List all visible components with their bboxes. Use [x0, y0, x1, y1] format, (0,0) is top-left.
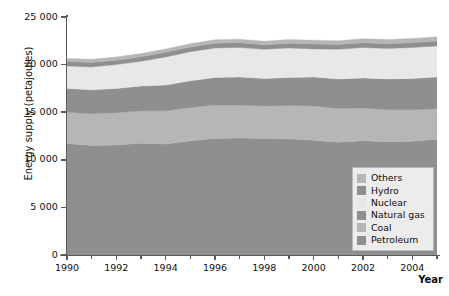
x-axis-tick: [116, 255, 118, 260]
x-axis-tick-label: 2000: [291, 262, 337, 273]
x-axis-minor-tick: [239, 255, 241, 259]
legend-item-label: Others: [371, 173, 402, 183]
y-axis-title: Energy supply (petajoules): [23, 24, 34, 204]
x-axis-minor-tick: [140, 255, 142, 259]
y-axis-tick-label: 25 000: [2, 12, 58, 22]
x-axis-tick-label: 1998: [241, 262, 287, 273]
legend-swatch-icon: [357, 186, 366, 195]
x-axis-minor-tick: [387, 255, 389, 259]
chart-legend: OthersHydroNuclearNatural gasCoalPetrole…: [352, 167, 434, 251]
x-axis-minor-tick: [338, 255, 340, 259]
x-axis-tick: [412, 255, 414, 260]
y-axis-tick-label: 0: [2, 250, 58, 260]
y-axis-tick: [61, 64, 66, 66]
x-axis-title: Year: [418, 274, 443, 285]
legend-item: Hydro: [357, 184, 429, 196]
legend-swatch-icon: [357, 174, 366, 183]
x-axis-tick: [214, 255, 216, 260]
x-axis-tick-label: 2004: [389, 262, 435, 273]
x-axis-tick: [313, 255, 315, 260]
legend-swatch-icon: [357, 211, 366, 220]
legend-swatch-icon: [357, 223, 366, 232]
x-axis-tick: [165, 255, 167, 260]
legend-item: Natural gas: [357, 209, 429, 221]
energy-supply-area-chart: 05 00010 00015 00020 00025 000 199019921…: [0, 0, 449, 296]
legend-item: Coal: [357, 222, 429, 234]
x-axis-minor-tick: [190, 255, 192, 259]
legend-swatch-icon: [357, 236, 366, 245]
legend-swatch-icon: [357, 198, 366, 207]
x-axis-tick-label: 1994: [143, 262, 189, 273]
legend-item-label: Natural gas: [371, 210, 425, 220]
y-axis-tick: [61, 159, 66, 161]
x-axis-tick-label: 1992: [93, 262, 139, 273]
legend-item-label: Coal: [371, 223, 391, 233]
y-axis-tick: [61, 207, 66, 209]
legend-item: Petroleum: [357, 234, 429, 246]
legend-item-label: Nuclear: [371, 198, 407, 208]
x-axis-minor-tick: [436, 255, 438, 259]
y-axis-tick: [61, 254, 66, 256]
legend-item: Others: [357, 172, 429, 184]
x-axis-minor-tick: [288, 255, 290, 259]
x-axis-tick-label: 2002: [340, 262, 386, 273]
x-axis-tick: [66, 255, 68, 260]
legend-item: Nuclear: [357, 197, 429, 209]
x-axis-tick-label: 1996: [192, 262, 238, 273]
x-axis-minor-tick: [91, 255, 93, 259]
x-axis-tick: [264, 255, 266, 260]
legend-item-label: Petroleum: [371, 235, 418, 245]
legend-item-label: Hydro: [371, 186, 399, 196]
x-axis-tick: [362, 255, 364, 260]
x-axis-tick-label: 1990: [44, 262, 90, 273]
y-axis-tick: [61, 111, 66, 113]
y-axis-tick: [61, 16, 66, 18]
